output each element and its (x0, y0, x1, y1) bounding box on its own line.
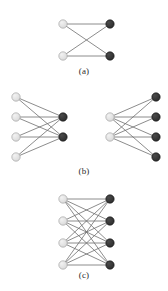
graph-node-light (59, 239, 67, 247)
graph-node-dark (152, 153, 160, 161)
graph-node-light (106, 113, 114, 121)
graph-edge (16, 137, 63, 157)
graph-node-light (59, 52, 67, 60)
graph-node-dark (59, 133, 67, 141)
graph-edge (16, 97, 63, 117)
graph-node-dark (106, 239, 114, 247)
caption-a: (a) (0, 66, 168, 76)
graph-node-dark (106, 20, 114, 28)
graph-node-light (12, 113, 20, 121)
graph-edge (110, 137, 156, 157)
graph-node-light (12, 153, 20, 161)
graph-node-light (12, 93, 20, 101)
graph-node-dark (106, 52, 114, 60)
panel-b (0, 88, 168, 164)
edge-group (110, 97, 156, 157)
graph-node-dark (152, 133, 160, 141)
graph-node-dark (106, 217, 114, 225)
bipartite-graph-k2-2 (0, 14, 168, 66)
edge-group (63, 199, 110, 265)
caption-b: (b) (0, 166, 168, 176)
graph-node-light (12, 133, 20, 141)
graph-node-light (59, 217, 67, 225)
graph-node-light (59, 261, 67, 269)
edge-group (63, 24, 110, 56)
bipartite-graph-k4-4 (0, 190, 168, 274)
graph-edge (110, 97, 156, 117)
caption-c: (c) (0, 270, 168, 280)
graph-node-dark (106, 195, 114, 203)
bipartite-graphs-k4-2-and-k2-4 (0, 88, 168, 166)
graph-node-dark (59, 113, 67, 121)
edge-group (16, 97, 63, 157)
panel-a (0, 14, 168, 66)
graph-node-light (59, 20, 67, 28)
panel-c (0, 190, 168, 268)
graph-node-dark (152, 93, 160, 101)
graph-node-light (59, 195, 67, 203)
graph-node-dark (152, 113, 160, 121)
figure-root: (a) (b) (c) (0, 0, 168, 291)
graph-node-light (106, 133, 114, 141)
graph-node-dark (106, 261, 114, 269)
